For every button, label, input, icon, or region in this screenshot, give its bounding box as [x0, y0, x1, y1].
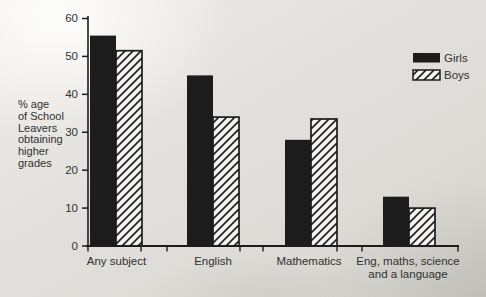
- bar-chart: 0102030405060Any subjectEnglishMathemati…: [0, 0, 486, 297]
- y-tick-label-30: 30: [65, 126, 78, 138]
- y-axis-label-line: grades: [18, 157, 52, 169]
- y-axis-label-line: % age: [18, 98, 49, 110]
- legend-swatch-girls: [413, 53, 440, 63]
- x-category-label-english: English: [194, 255, 232, 267]
- girls-bar-english: [187, 75, 213, 246]
- y-axis-label: % ageof SchoolLeaversobtaininghighergrad…: [18, 98, 64, 169]
- x-category-label-line: Mathematics: [276, 255, 341, 267]
- y-tick-label-10: 10: [65, 202, 78, 214]
- bar-group-any-subject: [90, 36, 142, 246]
- girls-bar-eng-maths-science-and-a-language: [383, 197, 409, 246]
- boys-bar-mathematics: [311, 119, 337, 246]
- legend: GirlsBoys: [413, 52, 470, 82]
- legend-swatch-boys: [413, 70, 440, 80]
- bar-group-eng-maths-science-and-a-language: [383, 197, 435, 246]
- boys-bar-eng-maths-science-and-a-language: [409, 208, 435, 246]
- y-axis-label-line: of School: [18, 110, 64, 122]
- x-category-label-line: Eng, maths, science: [356, 255, 460, 267]
- x-category-label-line: Any subject: [87, 255, 147, 267]
- y-axis-label-line: Leavers: [18, 122, 58, 134]
- x-category-label-mathematics: Mathematics: [276, 255, 341, 267]
- legend-label-boys: Boys: [444, 69, 470, 81]
- y-tick-label-40: 40: [65, 88, 78, 100]
- bar-group-english: [187, 75, 239, 246]
- x-category-label-line: English: [194, 255, 232, 267]
- legend-label-girls: Girls: [444, 52, 468, 64]
- y-tick-label-50: 50: [65, 50, 78, 62]
- girls-bar-mathematics: [285, 140, 311, 246]
- y-tick-label-0: 0: [72, 240, 78, 252]
- boys-bar-any-subject: [116, 51, 142, 246]
- x-category-label-eng-maths-science-and-a-language: Eng, maths, scienceand a language: [356, 255, 460, 280]
- y-tick-label-20: 20: [65, 164, 78, 176]
- y-axis-label-line: obtaining: [18, 133, 63, 145]
- y-axis-label-line: higher: [18, 145, 49, 157]
- x-category-label-any-subject: Any subject: [87, 255, 147, 267]
- boys-bar-english: [213, 117, 239, 246]
- y-tick-label-60: 60: [65, 12, 78, 24]
- girls-bar-any-subject: [90, 36, 116, 246]
- x-category-label-line: and a language: [368, 268, 447, 280]
- bar-group-mathematics: [285, 119, 337, 246]
- scanned-page: 0102030405060Any subjectEnglishMathemati…: [0, 0, 486, 297]
